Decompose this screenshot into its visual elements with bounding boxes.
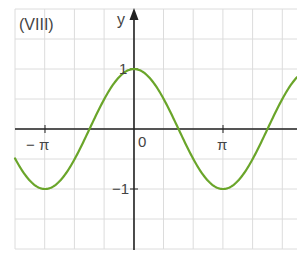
origin-label: 0 (138, 134, 146, 149)
x-axis (15, 125, 297, 133)
y-tick-1: 1 (119, 61, 127, 76)
chart-canvas (0, 0, 297, 253)
panel-label: (VIII) (19, 17, 54, 33)
y-tick-neg-1: −1 (112, 181, 129, 196)
y-axis-arrow-icon (130, 8, 139, 20)
x-tick-pi: π (217, 137, 227, 152)
y-axis-label: y (117, 12, 125, 28)
x-tick-neg-pi: − π (26, 137, 49, 152)
